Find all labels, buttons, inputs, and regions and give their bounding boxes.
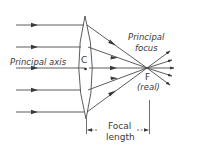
principal-focus-label-line1: Principal <box>128 32 165 42</box>
focus-point-label: F <box>145 72 150 82</box>
convex-lens <box>79 16 93 119</box>
optical-centre-label: C <box>81 55 87 65</box>
optical-centre-dot <box>84 68 87 71</box>
incident-ray-arrows <box>31 23 38 114</box>
focus-type-label: (real) <box>137 82 160 92</box>
focal-length-label-line2: length <box>106 132 135 142</box>
converging-lens-diagram: Principal axis C Principal focus F (real… <box>0 0 197 158</box>
focal-length-label-line1: Focal <box>108 121 131 131</box>
principal-focus-label-line2: focus <box>135 43 158 53</box>
principal-axis-label: Principal axis <box>10 57 67 67</box>
diverging-rays <box>147 51 174 85</box>
incident-rays <box>16 25 85 112</box>
